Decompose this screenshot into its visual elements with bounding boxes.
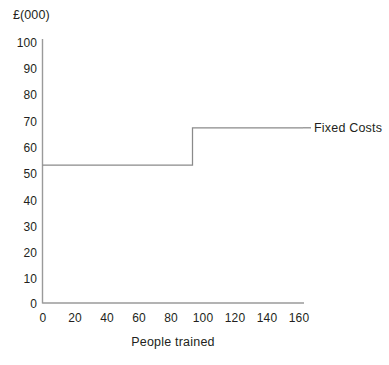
series-line-fixed-costs xyxy=(43,128,304,165)
plot-area xyxy=(0,0,389,365)
fixed-costs-step-chart: £(000) 100 90 80 70 60 50 40 30 20 10 0 … xyxy=(0,0,389,365)
series-label-fixed-costs: Fixed Costs xyxy=(314,121,382,135)
